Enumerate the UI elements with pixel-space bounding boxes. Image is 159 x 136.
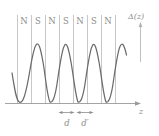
delta-curve bbox=[12, 44, 127, 102]
layer-label-s-1: S bbox=[32, 17, 44, 26]
layer-label-s-3: S bbox=[88, 17, 100, 26]
layer-label-n-3: N bbox=[74, 17, 86, 26]
layer-label-n-4: N bbox=[102, 17, 114, 26]
z-axis-arrowhead bbox=[135, 101, 141, 105]
dimension-label-d: d bbox=[61, 119, 73, 128]
x-axis-label: z bbox=[139, 108, 143, 116]
order-parameter-figure: N S N S N S N Δ(z) z d d′ bbox=[0, 0, 159, 136]
dimension-label-d-prime: d′ bbox=[79, 119, 91, 128]
delta-axis-arrowhead bbox=[139, 22, 143, 27]
y-axis-label: Δ(z) bbox=[128, 13, 144, 21]
layer-label-n-2: N bbox=[46, 17, 58, 26]
layer-label-n-1: N bbox=[18, 17, 30, 26]
layer-label-s-2: S bbox=[60, 17, 72, 26]
